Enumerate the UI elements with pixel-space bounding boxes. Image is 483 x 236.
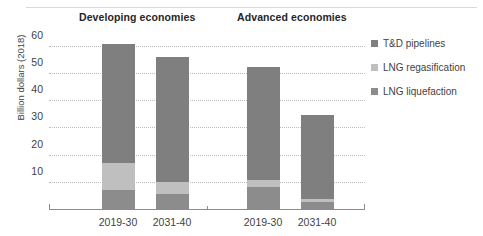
legend-item[interactable]: LNG regasification: [371, 62, 465, 73]
bar-segment[interactable]: [156, 57, 189, 182]
bar-column[interactable]: [156, 57, 189, 209]
bar-column[interactable]: [247, 67, 280, 209]
bar-column[interactable]: [301, 115, 334, 209]
bar-segment[interactable]: [247, 187, 280, 209]
x-tick-label: 2031-40: [298, 216, 337, 228]
legend-label: T&D pipelines: [383, 38, 445, 49]
legend-swatch-icon: [371, 40, 378, 47]
bar-segment[interactable]: [102, 190, 135, 209]
y-tick-label: 50: [13, 56, 43, 68]
bar-column[interactable]: [102, 44, 135, 209]
x-tick-label: 2019-30: [244, 216, 283, 228]
y-tick-label: 10: [13, 165, 43, 177]
legend: T&D pipelinesLNG regasificationLNG lique…: [371, 38, 465, 97]
top-divider: [26, 7, 477, 8]
x-tick-label: 2031-40: [153, 216, 192, 228]
bar-segment[interactable]: [247, 180, 280, 187]
legend-item[interactable]: T&D pipelines: [371, 38, 465, 49]
plot-area: 102030405060 2019-302031-402019-302031-4…: [49, 33, 365, 210]
legend-swatch-icon: [371, 88, 378, 95]
legend-label: LNG liquefaction: [383, 86, 457, 97]
y-tick-label: 30: [13, 110, 43, 122]
x-axis-group-separator: [207, 206, 208, 210]
x-axis-left-cap: [49, 204, 50, 210]
legend-swatch-icon: [371, 64, 378, 71]
bar-segment[interactable]: [156, 182, 189, 194]
bar-segment[interactable]: [247, 67, 280, 180]
bar-segment[interactable]: [102, 44, 135, 162]
x-axis-right-cap: [364, 204, 365, 210]
bar-segment[interactable]: [102, 163, 135, 190]
chart-figure: Developing economies Advanced economies …: [0, 0, 483, 236]
gridline: [49, 46, 365, 47]
y-tick-label: 60: [13, 29, 43, 41]
legend-label: LNG regasification: [383, 62, 465, 73]
bar-segment[interactable]: [301, 202, 334, 209]
x-tick-label: 2019-30: [99, 216, 138, 228]
legend-item[interactable]: LNG liquefaction: [371, 86, 465, 97]
bar-segment[interactable]: [301, 115, 334, 199]
bar-segment[interactable]: [156, 194, 189, 209]
gridline: [49, 100, 365, 101]
group-title-advanced: Advanced economies: [237, 11, 347, 23]
y-tick-label: 20: [13, 138, 43, 150]
group-title-developing: Developing economies: [79, 11, 195, 23]
y-tick-label: 40: [13, 83, 43, 95]
gridline: [49, 73, 365, 74]
